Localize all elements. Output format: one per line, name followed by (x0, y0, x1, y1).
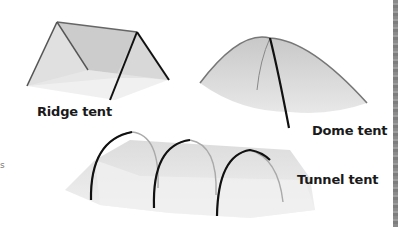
tunnel-tent-illustration (65, 132, 315, 218)
edge-text-fragment: s (0, 160, 5, 170)
ridge-tent-illustration (27, 22, 169, 100)
tunnel-tent-label: Tunnel tent (297, 172, 378, 187)
page-border-stroke (393, 0, 398, 227)
dome-tent-illustration (200, 37, 367, 128)
ridge-tent-label: Ridge tent (37, 104, 112, 119)
tent-types-diagram: Ridge tent Dome tent Tunnel tent s (0, 0, 403, 227)
dome-tent-label: Dome tent (312, 123, 387, 138)
